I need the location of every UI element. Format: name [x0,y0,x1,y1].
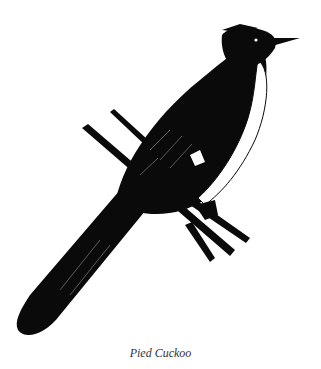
tail [17,190,150,335]
pied-cuckoo-illustration [0,0,321,345]
figure-caption: Pied Cuckoo [0,346,321,361]
